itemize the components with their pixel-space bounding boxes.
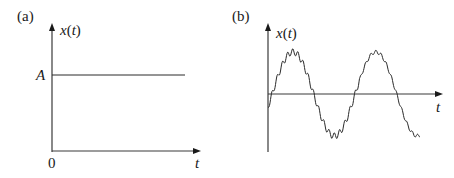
figure: (a) x(t) A 0 t (b) x(t) t bbox=[0, 0, 454, 178]
panel-b-y-label: x(t) bbox=[275, 25, 297, 42]
panel-b-x-label: t bbox=[436, 99, 441, 115]
panel-a-y-arrow-icon bbox=[49, 23, 55, 31]
panel-b: (b) x(t) t bbox=[232, 8, 443, 152]
panel-a-origin-label: 0 bbox=[48, 155, 56, 171]
panel-b-x-arrow-icon bbox=[435, 91, 443, 97]
panel-a-x-label: t bbox=[195, 155, 200, 171]
panel-a-y-label: x(t) bbox=[59, 22, 81, 39]
panel-b-y-arrow-icon bbox=[265, 23, 271, 31]
panel-a-level-label: A bbox=[35, 67, 46, 83]
panel-a-x-arrow-icon bbox=[193, 148, 201, 154]
panel-a: (a) x(t) A 0 t bbox=[17, 8, 201, 171]
panel-b-label: (b) bbox=[232, 8, 250, 25]
panel-a-label: (a) bbox=[17, 8, 34, 25]
